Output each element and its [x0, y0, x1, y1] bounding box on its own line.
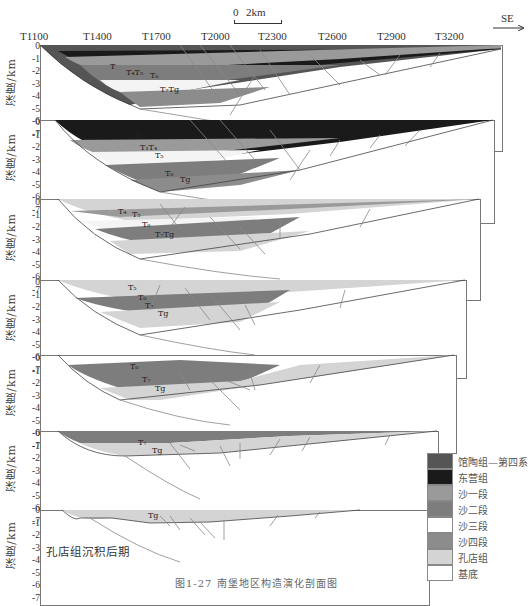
scale-bar: 0 2km [232, 6, 292, 24]
legend-swatch [427, 485, 453, 501]
trace-label: T2900 [377, 30, 406, 42]
legend-item-kongdian: 孔店组 [427, 549, 530, 565]
legend-label: 东营组 [458, 470, 488, 485]
figure-caption: 图1-27 南堡地区构造演化剖面图 [175, 575, 338, 590]
panel-title: 孔店组沉积后期 [46, 543, 130, 559]
direction-indicator: SE [493, 12, 527, 30]
legend-swatch [427, 517, 453, 533]
legend-label: 沙二段 [458, 502, 488, 517]
legend-swatch [427, 501, 453, 517]
y-axis-label: 深度/km [4, 58, 20, 106]
svg-text:T₂: T₂ [135, 131, 144, 140]
y-axis-ticks: 0-1-2-3-4-5-6-7 [22, 504, 40, 604]
svg-text:Tg: Tg [148, 511, 158, 520]
legend-swatch [427, 549, 453, 565]
svg-text:T₇Tg: T₇Tg [160, 85, 179, 94]
legend-label: 沙四段 [458, 534, 488, 549]
scale-bar-end: 2km [246, 6, 266, 18]
svg-text:T₄: T₄ [118, 207, 127, 216]
scale-bar-line [234, 20, 282, 24]
legend-item-dongying: 东营组 [427, 469, 530, 485]
svg-text:Tg: Tg [180, 175, 190, 184]
svg-text:T₇Tg: T₇Tg [155, 230, 174, 239]
legend-label: 沙三段 [458, 518, 488, 533]
legend-label: 孔店组 [458, 550, 488, 565]
svg-text:T₆: T₆ [142, 220, 151, 229]
svg-text:T₆: T₆ [165, 169, 174, 178]
legend-swatch [427, 533, 453, 549]
scale-bar-start: 0 [233, 6, 239, 18]
legend-swatch [427, 469, 453, 485]
legend-item-basement: 基底 [427, 565, 530, 581]
legend-item-sha2: 沙二段 [427, 501, 530, 517]
svg-text:T₇: T₇ [138, 438, 147, 447]
svg-text:Tg: Tg [152, 446, 162, 455]
svg-text:T₅: T₅ [132, 210, 141, 219]
trace-label: T1400 [83, 30, 112, 42]
svg-text:Tg: Tg [155, 384, 165, 393]
svg-text:T₇: T₇ [142, 375, 151, 384]
trace-label: T1700 [142, 30, 171, 42]
svg-text:T₄T₅: T₄T₅ [126, 68, 143, 77]
svg-text:T₇: T₇ [145, 301, 154, 310]
svg-text:Tg: Tg [158, 309, 168, 318]
y-axis-label: 深度/km [4, 521, 20, 569]
trace-label: T2000 [201, 30, 230, 42]
legend: 馆陶组—第四系 东营组 沙一段 沙二段 沙三段 沙四段 孔店组 基底 [427, 453, 530, 583]
legend-item-sha1: 沙一段 [427, 485, 530, 501]
legend-swatch [427, 565, 453, 581]
trace-label: T2300 [258, 30, 287, 42]
y-axis-label: 深度/km [4, 444, 20, 492]
trace-label: T3200 [435, 30, 464, 42]
y-axis-label: 深度/km [4, 368, 20, 416]
svg-text:T: T [110, 62, 116, 71]
legend-label: 基底 [458, 566, 478, 581]
y-axis-label: 深度/km [4, 213, 20, 261]
legend-item-sha4: 沙四段 [427, 533, 530, 549]
svg-text:T₅: T₅ [155, 151, 164, 160]
legend-item-guantao: 馆陶组—第四系 [427, 453, 530, 469]
legend-swatch [427, 453, 453, 469]
legend-item-sha3: 沙三段 [427, 517, 530, 533]
trace-label: T2600 [318, 30, 347, 42]
svg-text:T₆: T₆ [150, 71, 159, 80]
y-axis-label: 深度/km [4, 133, 20, 181]
direction-label: SE [501, 12, 514, 24]
legend-label: 沙一段 [458, 486, 488, 501]
svg-text:T₆: T₆ [130, 362, 139, 371]
svg-text:T₅: T₅ [128, 283, 137, 292]
legend-label: 馆陶组—第四系 [458, 454, 528, 469]
trace-labels: T1100 T1400 T1700 T2000 T2300 T2600 T290… [0, 30, 530, 44]
y-axis-label: 深度/km [4, 293, 20, 341]
